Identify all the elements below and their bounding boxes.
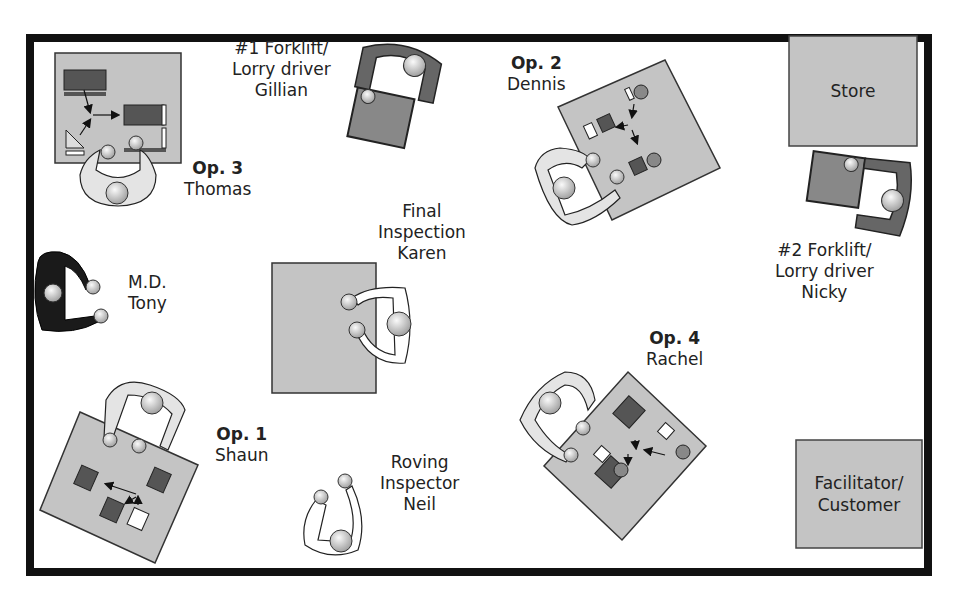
op1-workstation xyxy=(40,382,198,563)
forklift-2 xyxy=(804,149,915,236)
op4-label: Op. 4 Rachel xyxy=(646,328,703,370)
op3-label: Op. 3 Thomas xyxy=(184,158,251,200)
forklift-2-label: #2 Forklift/ Lorry driver Nicky xyxy=(775,240,874,303)
op2-label: Op. 2 Dennis xyxy=(507,53,566,95)
final-inspection-label: Final Inspection Karen xyxy=(378,201,466,264)
forklift-1 xyxy=(344,38,443,152)
facilitator-label: Facilitator/ Customer xyxy=(796,440,922,548)
md-label: M.D. Tony xyxy=(128,272,167,314)
op1-label: Op. 1 Shaun xyxy=(215,424,269,466)
roving-inspector-label: Roving Inspector Neil xyxy=(380,452,459,515)
md-person xyxy=(35,252,108,332)
op3-workstation xyxy=(55,53,181,206)
final-inspection-station xyxy=(272,263,411,393)
op4-workstation xyxy=(520,372,706,540)
roving-inspector-person xyxy=(304,474,362,555)
store-label: Store xyxy=(789,36,917,146)
forklift-1-label: #1 Forklift/ Lorry driver Gillian xyxy=(232,38,331,101)
